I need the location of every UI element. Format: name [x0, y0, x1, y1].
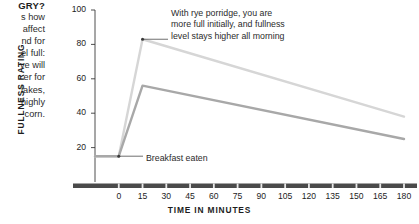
x-axis-tick-label: 15 — [131, 191, 155, 201]
x-axis-tick-label: 45 — [178, 191, 202, 201]
y-axis-tick-label: 60 — [62, 73, 86, 83]
x-axis-tick — [260, 184, 262, 189]
y-axis-tick-label: 20 — [62, 142, 86, 152]
x-axis-title: TIME IN MINUTES — [0, 205, 419, 215]
annotation-rye-porridge: With rye porridge, you are more full ini… — [171, 8, 285, 42]
x-axis-tick-label: 90 — [249, 191, 273, 201]
annotation-line: With rye porridge, you are — [171, 8, 285, 19]
x-axis-tick — [284, 184, 286, 189]
annotation-marker-breakfast — [117, 155, 120, 158]
x-axis-tick-label: 0 — [107, 191, 131, 201]
x-axis-tick — [165, 184, 167, 189]
annotation-marker-rye — [141, 38, 144, 41]
x-axis-tick-label: 120 — [297, 191, 321, 201]
annotation-line: level stays higher all morning — [171, 31, 285, 42]
y-axis-tick-label: 80 — [62, 38, 86, 48]
x-axis-tick-label: 30 — [154, 191, 178, 201]
x-axis-tick — [308, 184, 310, 189]
x-axis-tick-label: 105 — [273, 191, 297, 201]
y-axis-title: FULLNESS RATING — [16, 44, 26, 135]
x-axis-tick-label: 165 — [368, 191, 392, 201]
x-axis-tick — [237, 184, 239, 189]
x-axis-tick-label: 135 — [321, 191, 345, 201]
series-line-rye-porridge — [95, 39, 404, 156]
x-axis-tick — [332, 184, 334, 189]
x-axis-tick-label: 60 — [202, 191, 226, 201]
x-axis-tick-label: 180 — [392, 191, 416, 201]
y-axis-tick-label: 100 — [62, 4, 86, 14]
annotation-breakfast-eaten: Breakfast eaten — [146, 153, 208, 164]
x-axis-bar — [73, 184, 417, 189]
x-axis-tick — [189, 184, 191, 189]
x-axis-tick-label: 75 — [226, 191, 250, 201]
annotation-line: more full initially, and fullness — [171, 19, 285, 30]
x-axis-tick — [118, 184, 120, 189]
y-axis-tick-label: 40 — [62, 107, 86, 117]
x-axis-tick — [213, 184, 215, 189]
x-axis-tick — [403, 184, 405, 189]
x-axis-tick — [379, 184, 381, 189]
x-axis-tick — [356, 184, 358, 189]
x-axis-tick-label: 150 — [344, 191, 368, 201]
x-axis-tick — [142, 184, 144, 189]
series-line-cornflakes — [95, 86, 404, 157]
